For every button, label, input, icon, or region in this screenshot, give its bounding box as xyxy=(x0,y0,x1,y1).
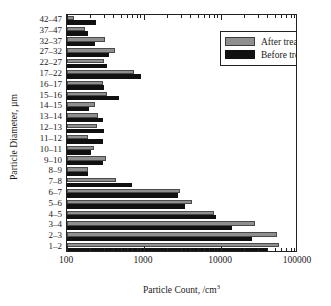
bar-before-treatment xyxy=(67,139,103,143)
y-axis-tick-label: 42–47 xyxy=(16,14,62,24)
x-axis-minor-tick xyxy=(137,15,138,18)
bar-before-treatment xyxy=(67,183,132,187)
x-axis-minor-tick xyxy=(121,248,122,251)
x-axis-minor-tick xyxy=(198,248,199,251)
x-axis-minor-tick xyxy=(294,15,295,18)
bar-before-treatment xyxy=(67,129,104,133)
x-axis-minor-tick xyxy=(167,248,168,251)
bar-before-treatment xyxy=(67,53,109,57)
x-axis-minor-tick xyxy=(104,15,105,18)
y-axis-tick-label: 13–14 xyxy=(16,111,62,121)
bar-group xyxy=(67,199,296,210)
x-axis-minor-tick xyxy=(198,15,199,18)
x-axis-minor-tick xyxy=(104,248,105,251)
bar-before-treatment xyxy=(67,161,103,165)
bar-before-treatment xyxy=(67,31,88,35)
bar-before-treatment xyxy=(67,42,95,46)
y-axis-tick-label: 9–10 xyxy=(16,155,62,165)
y-axis-tick-label: 11–12 xyxy=(16,133,62,143)
y-axis-tick-label: 7–8 xyxy=(16,176,62,186)
bar-before-treatment xyxy=(67,237,252,241)
bar-group xyxy=(67,166,296,177)
legend-item-after: After treatment xyxy=(225,35,297,48)
x-axis-minor-tick xyxy=(204,15,205,18)
x-axis-minor-tick xyxy=(217,248,218,251)
x-axis-minor-tick xyxy=(132,248,133,251)
x-axis-minor-tick xyxy=(137,248,138,251)
x-axis-minor-tick xyxy=(204,248,205,251)
chart-figure: Particle Diameter, µm After treatment Be… xyxy=(0,0,331,306)
x-axis-minor-tick xyxy=(244,248,245,251)
bar-group xyxy=(67,91,296,102)
x-axis-minor-tick xyxy=(275,248,276,251)
x-axis-major-tick xyxy=(144,15,145,20)
x-axis-minor-tick xyxy=(294,248,295,251)
x-axis-minor-tick xyxy=(127,248,128,251)
y-axis-tick-label: 4–5 xyxy=(16,209,62,219)
x-axis-minor-tick xyxy=(113,15,114,18)
x-axis-title-superscript: 3 xyxy=(217,283,220,290)
y-axis-tick-label: 32–37 xyxy=(16,36,62,46)
bar-group xyxy=(67,221,296,232)
bar-group xyxy=(67,123,296,134)
x-axis-minor-tick xyxy=(281,248,282,251)
bar-group xyxy=(67,112,296,123)
bar-before-treatment xyxy=(67,96,119,100)
bar-before-treatment xyxy=(67,193,178,197)
y-axis-tick-label: 2–3 xyxy=(16,230,62,240)
y-axis-tick-label: 3–4 xyxy=(16,219,62,229)
bar-group xyxy=(67,156,296,167)
bar-before-treatment xyxy=(67,204,185,208)
bar-before-treatment xyxy=(67,85,104,89)
x-axis-minor-tick xyxy=(267,15,268,18)
y-axis-tick-label: 27–32 xyxy=(16,46,62,56)
bar-group xyxy=(67,188,296,199)
x-axis-minor-tick xyxy=(90,15,91,18)
bar-before-treatment xyxy=(67,118,103,122)
y-axis-tick-label: 12–13 xyxy=(16,122,62,132)
x-axis-minor-tick xyxy=(167,15,168,18)
bar-before-treatment xyxy=(67,150,91,154)
y-axis-tick-label: 8–9 xyxy=(16,165,62,175)
x-axis-minor-tick xyxy=(258,248,259,251)
x-axis-minor-tick xyxy=(190,15,191,18)
bar-group xyxy=(67,210,296,221)
y-axis-tick-label: 37–47 xyxy=(16,25,62,35)
plot-area: After treatment Before treatment xyxy=(66,14,297,252)
x-axis-minor-tick xyxy=(291,15,292,18)
chart-legend: After treatment Before treatment xyxy=(220,31,297,66)
legend-label-after: After treatment xyxy=(261,37,297,47)
x-axis-minor-tick xyxy=(132,15,133,18)
x-axis-minor-tick xyxy=(291,248,292,251)
x-axis-minor-tick xyxy=(190,248,191,251)
x-axis-minor-tick xyxy=(140,248,141,251)
x-axis-tick-label: 1000 xyxy=(134,255,153,265)
x-axis-minor-tick xyxy=(275,15,276,18)
bar-before-treatment xyxy=(67,107,89,111)
x-axis-major-tick xyxy=(67,246,68,251)
x-axis-minor-tick xyxy=(258,15,259,18)
x-axis-major-tick xyxy=(67,15,68,20)
bar-group xyxy=(67,102,296,113)
bar-before-treatment xyxy=(67,215,216,219)
bar-before-treatment xyxy=(67,20,96,24)
x-axis-minor-tick xyxy=(214,15,215,18)
y-axis-tick-label: 10–11 xyxy=(16,144,62,154)
x-axis-minor-tick xyxy=(286,248,287,251)
legend-swatch-after-icon xyxy=(225,37,255,46)
x-axis-minor-tick xyxy=(244,15,245,18)
y-axis-tick-label: 5–6 xyxy=(16,198,62,208)
y-axis-tick-label: 14–15 xyxy=(16,100,62,110)
x-axis-minor-tick xyxy=(113,248,114,251)
bar-group xyxy=(67,80,296,91)
bar-before-treatment xyxy=(67,226,232,230)
x-axis-title: Particle Count, /cm3 xyxy=(66,283,297,295)
legend-swatch-before-icon xyxy=(225,50,255,59)
x-axis-title-text: Particle Count, /cm xyxy=(143,285,217,295)
bar-group xyxy=(67,177,296,188)
y-axis-tick-label: 16–17 xyxy=(16,79,62,89)
x-axis-tick-label: 100000 xyxy=(283,255,312,265)
bar-group xyxy=(67,145,296,156)
legend-label-before: Before treatment xyxy=(261,50,297,60)
y-axis-title: Particle Diameter, µm xyxy=(9,37,19,237)
